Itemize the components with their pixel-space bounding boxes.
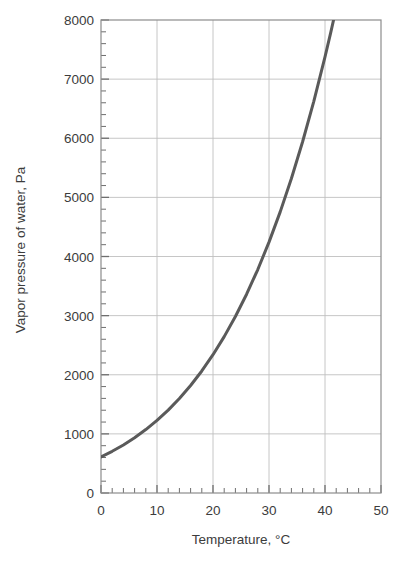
x-tick-label: 50	[373, 503, 388, 518]
y-axis-label-container: Vapor pressure of water, Pa	[0, 0, 40, 500]
x-axis-label: Temperature, °C	[101, 532, 381, 547]
y-tick-label: 8000	[34, 13, 94, 28]
x-tick-label: 0	[97, 503, 105, 518]
y-axis-label: Vapor pressure of water, Pa	[13, 167, 28, 333]
y-tick-label: 6000	[34, 131, 94, 146]
y-tick-label: 2000	[34, 367, 94, 382]
x-tick-label: 40	[317, 503, 332, 518]
x-tick-label: 30	[261, 503, 276, 518]
x-tick-label: 20	[205, 503, 220, 518]
y-tick-label: 3000	[34, 308, 94, 323]
x-tick-label: 10	[149, 503, 164, 518]
y-tick-label: 5000	[34, 190, 94, 205]
figure-canvas: 010002000300040005000600070008000 010203…	[0, 0, 412, 571]
y-tick-label: 1000	[34, 426, 94, 441]
y-tick-label: 4000	[34, 249, 94, 264]
y-tick-label: 7000	[34, 72, 94, 87]
y-tick-label: 0	[34, 486, 94, 501]
